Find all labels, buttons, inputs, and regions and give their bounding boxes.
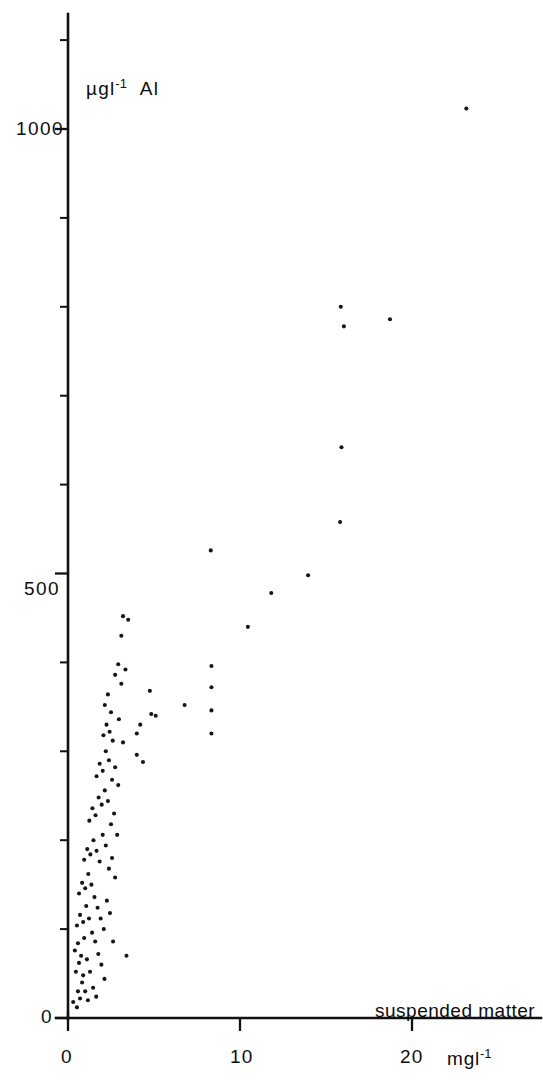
data-point (109, 710, 113, 714)
data-point (113, 765, 117, 769)
data-point (306, 573, 310, 577)
data-point (112, 811, 116, 815)
data-point (123, 667, 127, 671)
data-point (138, 723, 142, 727)
data-point (209, 685, 213, 689)
data-point (73, 948, 77, 952)
data-point (101, 833, 105, 837)
data-point (90, 806, 94, 810)
data-point (342, 324, 346, 328)
data-point (116, 662, 120, 666)
data-point (99, 963, 103, 967)
data-point (209, 731, 213, 735)
data-point (111, 739, 115, 743)
data-point (98, 762, 102, 766)
data-point (96, 906, 100, 910)
data-point (124, 954, 128, 958)
data-point (74, 970, 78, 974)
data-point (101, 733, 105, 737)
data-point (104, 843, 108, 847)
data-point (464, 107, 468, 111)
data-point (91, 986, 95, 990)
data-point (85, 957, 89, 961)
x-axis-label: suspended matter (375, 1000, 535, 1022)
data-point (102, 977, 106, 981)
data-point (89, 883, 93, 887)
data-point (107, 758, 111, 762)
data-point (106, 799, 110, 803)
data-point (82, 936, 86, 940)
x-tick-label-20: 20 (400, 1046, 424, 1068)
data-point (104, 749, 108, 753)
data-point (113, 673, 117, 677)
scatter-plot-figure: µgl-1 Al 1000 500 0 0 10 20 mgl-1 suspen… (0, 0, 543, 1083)
data-point (141, 760, 145, 764)
data-point (116, 783, 120, 787)
axes-group (56, 14, 541, 1019)
data-point (135, 731, 139, 735)
data-point (107, 867, 111, 871)
data-point (86, 872, 90, 876)
data-point (83, 886, 87, 890)
y-tick-label-1000: 1000 (16, 118, 64, 140)
data-point (78, 996, 82, 1000)
data-point (110, 856, 114, 860)
data-point (93, 940, 97, 944)
data-point (339, 305, 343, 309)
data-point (121, 740, 125, 744)
data-point (90, 931, 94, 935)
data-point (183, 703, 187, 707)
data-point (86, 998, 90, 1002)
y-tick-label-0: 0 (41, 1006, 52, 1028)
data-point (100, 803, 104, 807)
data-point (88, 852, 92, 856)
data-point (94, 995, 98, 999)
data-point (98, 859, 102, 863)
data-point (108, 911, 112, 915)
x-axis-units-label: mgl-1 (447, 1046, 492, 1070)
data-point (339, 445, 343, 449)
y-axis-ticks (55, 40, 68, 1018)
data-point (95, 774, 99, 778)
data-point (76, 989, 80, 993)
data-point (84, 904, 88, 908)
data-point (104, 723, 108, 727)
data-point (338, 520, 342, 524)
data-point (77, 961, 81, 965)
data-point (81, 973, 85, 977)
data-point (80, 881, 84, 885)
data-point (75, 1005, 79, 1009)
data-point (246, 625, 250, 629)
data-point (85, 847, 89, 851)
data-point (108, 730, 112, 734)
data-point (97, 795, 101, 799)
data-point (82, 858, 86, 862)
data-point (77, 891, 81, 895)
x-tick-label-0: 0 (61, 1046, 72, 1068)
data-point (88, 970, 92, 974)
data-point (87, 819, 91, 823)
data-point (93, 813, 97, 817)
data-point (95, 849, 99, 853)
data-point (149, 712, 153, 716)
x-axis-ticks (68, 1011, 412, 1031)
data-point (135, 753, 139, 757)
data-point (154, 714, 158, 718)
data-point (91, 838, 95, 842)
data-point (79, 954, 83, 958)
plot-canvas (0, 0, 543, 1083)
data-point (71, 1000, 75, 1004)
data-point (76, 941, 80, 945)
data-point (388, 317, 392, 321)
data-point (209, 548, 213, 552)
data-point (117, 717, 121, 721)
data-point (96, 952, 100, 956)
data-point (113, 875, 117, 879)
data-point (110, 778, 114, 782)
data-point (78, 913, 82, 917)
data-point (80, 980, 84, 984)
data-point (115, 833, 119, 837)
data-point (101, 769, 105, 773)
data-point (121, 614, 125, 618)
data-point (119, 682, 123, 686)
